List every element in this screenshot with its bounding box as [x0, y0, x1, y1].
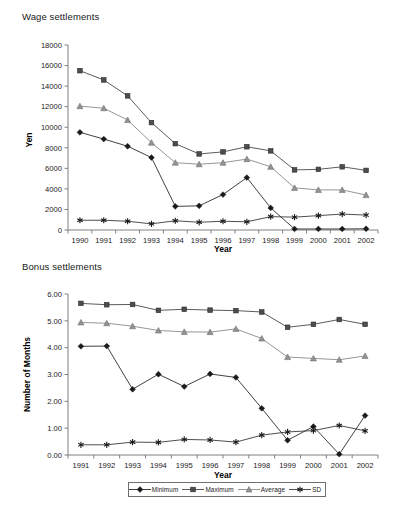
square-marker	[259, 310, 264, 315]
square-marker	[208, 308, 213, 313]
y-tick-label: 6000	[45, 164, 62, 173]
y-tick-label: 0	[58, 226, 62, 235]
square-marker	[191, 487, 196, 492]
bonus-settlements-panel: Bonus settlements 0.001.002.003.004.005.…	[0, 256, 398, 512]
x-tick-label: 1990	[71, 236, 88, 245]
x-tick-label: 1994	[167, 236, 184, 245]
series-maximum	[78, 68, 369, 172]
diamond-marker	[172, 203, 178, 209]
legend-label: Maximum	[204, 486, 237, 493]
diamond-marker	[149, 155, 155, 161]
x-tick-label: 1998	[262, 236, 279, 245]
y-tick-label: 10000	[41, 123, 62, 132]
square-marker	[197, 152, 202, 157]
axes	[68, 294, 378, 455]
square-marker	[79, 301, 84, 306]
series-line	[80, 132, 366, 229]
diamond-marker	[315, 226, 321, 232]
series-line	[81, 322, 365, 359]
y-axis-ticks: 0.001.002.003.004.005.006.00	[47, 290, 68, 460]
square-marker	[311, 322, 316, 327]
diamond-marker	[196, 203, 202, 209]
y-tick-label: 2000	[45, 205, 62, 214]
series-line	[80, 71, 366, 171]
x-tick-label: 1997	[227, 461, 244, 470]
square-marker	[156, 308, 161, 313]
legend-key-diamond-marker	[129, 485, 151, 494]
square-marker	[221, 150, 226, 155]
series-sd	[77, 211, 369, 227]
y-tick-label: 1.00	[47, 424, 62, 433]
x-tick-label: 2002	[357, 461, 374, 470]
x-tick-label: 1999	[286, 236, 303, 245]
square-marker	[316, 167, 321, 172]
x-tick-label: 2000	[305, 461, 322, 470]
y-axis-ticks: 0200040006000800010000120001400016000180…	[41, 41, 68, 235]
y-tick-label: 6.00	[47, 290, 62, 299]
diamond-marker	[181, 384, 187, 390]
diamond-marker	[125, 143, 131, 149]
legend-key-square-marker	[182, 485, 204, 494]
diamond-marker	[78, 343, 84, 349]
diamond-marker	[137, 487, 143, 493]
square-marker	[234, 308, 239, 313]
series-line	[81, 346, 365, 454]
diamond-marker	[104, 343, 110, 349]
x-axis-ticks: 1990199119921993199419951996199719981999…	[68, 230, 378, 245]
legend-label: Average	[260, 486, 289, 493]
square-marker	[337, 317, 342, 322]
y-tick-label: 0.00	[47, 451, 62, 460]
series-line	[81, 425, 365, 444]
x-tick-label: 1995	[191, 236, 208, 245]
series-sd	[78, 422, 368, 448]
x-tick-label: 1995	[176, 461, 193, 470]
legend-key-asterisk-marker	[289, 485, 311, 494]
bonus-settlements-plot: 0.001.002.003.004.005.006.00199119921993…	[0, 256, 398, 512]
x-tick-label: 1999	[279, 461, 296, 470]
x-axis-title: Year	[214, 470, 233, 480]
y-tick-label: 3.00	[47, 370, 62, 379]
square-marker	[173, 141, 178, 146]
square-marker	[149, 120, 154, 125]
x-axis-ticks: 1991199219931994199519961997199819992000…	[68, 455, 378, 470]
diamond-marker	[101, 136, 107, 142]
y-tick-label: 14000	[41, 82, 62, 91]
x-tick-label: 1991	[95, 236, 112, 245]
square-marker	[285, 325, 290, 330]
square-marker	[78, 68, 83, 73]
square-marker	[364, 168, 369, 173]
diamond-marker	[362, 413, 368, 419]
chart-legend: MinimumMaximumAverageSD	[128, 482, 326, 497]
x-tick-label: 1992	[119, 236, 136, 245]
y-tick-label: 8000	[45, 144, 62, 153]
legend-entry-sd: SD	[289, 485, 325, 494]
square-marker	[104, 302, 109, 307]
y-tick-label: 4.00	[47, 343, 62, 352]
x-tick-label: 2000	[310, 236, 327, 245]
legend-label: Minimum	[151, 486, 183, 493]
y-tick-label: 12000	[41, 102, 62, 111]
x-tick-label: 1997	[238, 236, 255, 245]
square-marker	[125, 94, 130, 99]
square-marker	[245, 144, 250, 149]
diamond-marker	[77, 129, 83, 135]
legend-key-triangle-marker	[238, 485, 260, 494]
triangle-marker	[259, 336, 265, 342]
legend-label: SD	[311, 486, 325, 493]
square-marker	[292, 168, 297, 173]
diamond-marker	[130, 386, 136, 392]
x-tick-label: 2001	[334, 236, 351, 245]
y-tick-label: 18000	[41, 41, 62, 50]
square-marker	[363, 322, 368, 327]
y-axis-title: Number of Months	[22, 337, 32, 412]
x-tick-label: 1998	[253, 461, 270, 470]
diamond-marker	[220, 192, 226, 198]
x-tick-label: 1993	[143, 236, 160, 245]
y-tick-label: 2.00	[47, 397, 62, 406]
legend-entry-maximum: Maximum	[182, 485, 237, 494]
x-tick-label: 1996	[202, 461, 219, 470]
x-axis-title: Year	[214, 244, 233, 254]
x-tick-label: 1994	[150, 461, 167, 470]
x-tick-label: 2002	[358, 236, 375, 245]
legend-entry-minimum: Minimum	[129, 485, 183, 494]
